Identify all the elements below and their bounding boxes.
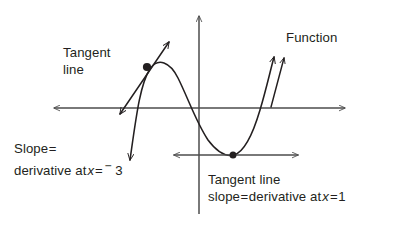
slope-equals-sign: =	[48, 141, 57, 156]
tangent-line-top-label: Tangent line	[63, 45, 111, 78]
tangent-line-bottom-label-line1: Tangent line	[208, 172, 346, 189]
slope-equals-sign-bottom: =	[240, 189, 249, 204]
x-value-one: 1	[338, 189, 345, 204]
slope-word: Slope	[14, 141, 48, 156]
tangent-line-bottom-label: Tangent line slope=derivative atx=1	[208, 172, 346, 205]
tangent-line-negative-three-path	[120, 42, 169, 114]
derivative-tangent-diagram: Tangent line Function Slope= derivative …	[0, 0, 404, 228]
derivative-at-text-bottom: derivative at	[249, 189, 321, 204]
x-value-three: 3	[115, 163, 122, 178]
tangent-line-top-label-line1: Tangent	[63, 45, 111, 62]
tangent-point-one	[230, 152, 237, 159]
function-label-text: Function	[286, 30, 337, 45]
slope-derivative-label-line2: derivative atx=− 3	[14, 158, 123, 180]
tangent-line-one	[174, 152, 298, 159]
slope-derivative-label: Slope= derivative atx=− 3	[14, 141, 123, 179]
tangent-line-top-label-line2: line	[63, 62, 111, 79]
tangent-point-negative-three	[143, 63, 151, 71]
tangent-line-negative-three	[120, 42, 169, 114]
function-pointer-arrow	[271, 58, 284, 107]
slope-word-bottom: slope	[208, 189, 240, 204]
negative-sign: −	[103, 159, 111, 173]
variable-x: x	[86, 163, 94, 178]
derivative-at-text: derivative at	[14, 163, 86, 178]
function-label: Function	[286, 30, 337, 47]
equals-sign-bottom: =	[329, 189, 338, 204]
tangent-line-bottom-label-line2: slope=derivative atx=1	[208, 189, 346, 206]
function-pointer-line	[271, 58, 284, 107]
slope-derivative-label-line1: Slope=	[14, 141, 123, 158]
